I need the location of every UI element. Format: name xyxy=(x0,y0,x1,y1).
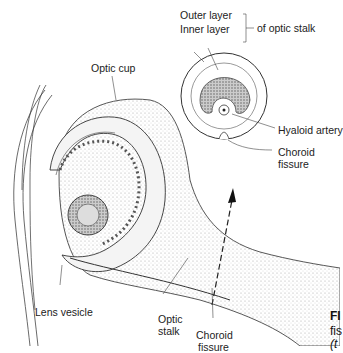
label-choroid-fissure-bottom-2: fissure xyxy=(198,341,229,353)
label-lens-vesicle: Lens vesicle xyxy=(35,306,93,318)
label-optic-stalk-2: stalk xyxy=(158,325,180,337)
optic-stalk-cross-section xyxy=(181,53,267,139)
label-choroid-fissure-top-1: Choroid xyxy=(278,146,315,158)
figure-caption-line3: (t xyxy=(330,338,337,351)
label-optic-stalk-1: Optic xyxy=(158,313,183,325)
label-inner-layer: Inner layer xyxy=(180,23,230,35)
figure-caption-prefix: FI xyxy=(330,310,341,323)
label-outer-layer: Outer layer xyxy=(180,9,232,21)
label-optic-cup: Optic cup xyxy=(91,62,135,74)
label-of-optic-stalk: of optic stalk xyxy=(257,22,315,34)
label-hyaloid-artery: Hyaloid artery xyxy=(278,124,343,136)
label-choroid-fissure-top-2: fissure xyxy=(278,158,309,170)
label-choroid-fissure-bottom-1: Choroid xyxy=(196,329,233,341)
